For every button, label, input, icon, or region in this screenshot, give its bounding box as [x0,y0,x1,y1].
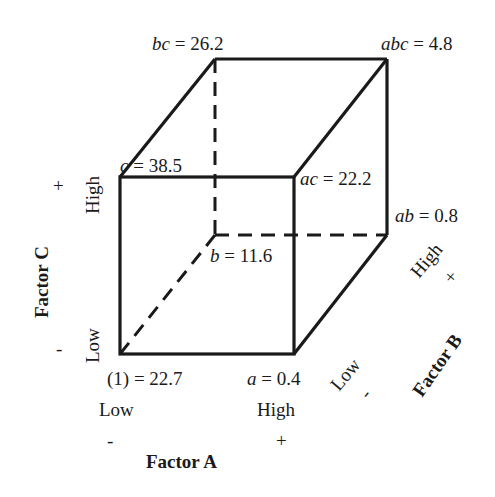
factor-c-title: Factor C [31,246,52,318]
factorial-cube-diagram: bc = 26.2 abc = 4.8 c = 38.5 ac = 22.2 a… [0,0,495,497]
factor-a-high-label: High [257,399,296,420]
vertex-label-bc: bc = 26.2 [152,33,223,54]
vertex-label-b: b = 11.6 [210,245,272,266]
vertex-label-c: c = 38.5 [120,155,182,176]
factor-a-low-sign: - [107,430,113,451]
vertex-label-one: (1) = 22.7 [107,368,183,390]
factor-b-high-sign: + [439,266,462,288]
factor-b-title: Factor B [408,330,466,400]
factor-c-high-sign: + [53,175,64,196]
vertex-label-a: a = 0.4 [247,368,301,389]
edge-a-ab [294,235,387,354]
factor-c-low-label: Low [82,328,103,363]
factor-a-title: Factor A [146,451,217,472]
factor-c-high-label: High [82,176,103,215]
factor-a-high-sign: + [276,430,287,451]
edge-b-one [120,235,215,354]
visible-edges [120,59,387,354]
factor-b-low-sign: - [355,384,375,402]
vertex-label-ab: ab = 0.8 [395,205,458,226]
factor-c-low-sign: - [56,338,62,359]
vertex-label-ac: ac = 22.2 [300,168,371,189]
edge-ac-abc [294,59,387,177]
hidden-edges [120,59,387,354]
vertex-label-abc: abc = 4.8 [381,33,452,54]
factor-a-low-label: Low [99,399,134,420]
